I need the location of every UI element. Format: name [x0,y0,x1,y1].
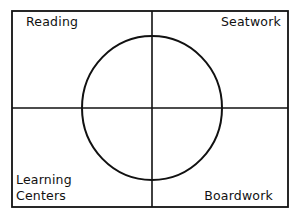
quadrant-label-boardwork: Boardwork [204,188,273,204]
quadrant-label-seatwork: Seatwork [221,14,281,30]
quadrant-label-reading: Reading [26,14,78,30]
quadrant-label-learning-line2: Centers [16,188,72,204]
quadrant-label-learning-centers: Learning Centers [16,172,72,204]
quadrant-label-learning-line1: Learning [16,172,72,188]
